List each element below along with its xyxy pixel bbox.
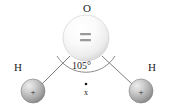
oxygen-atom-sphere: [63, 15, 109, 61]
oxygen-lone-pair-mark-upper: [80, 33, 91, 35]
bond-line-right: [102, 56, 132, 84]
water-molecule-figure: + + O H H 105° x: [0, 0, 171, 109]
hydrogen-left-atom-label: H: [14, 62, 22, 73]
dipole-marker-dot: [85, 83, 88, 86]
hydrogen-right-charge-label: +: [138, 87, 143, 97]
oxygen-lone-pair-mark-lower: [80, 39, 91, 41]
dipole-marker-label: x: [84, 89, 88, 97]
oxygen-atom-label: O: [83, 3, 91, 14]
bond-angle-label: 105°: [72, 61, 91, 71]
bond-line-left: [42, 56, 70, 84]
hydrogen-left-charge-label: +: [30, 87, 35, 97]
hydrogen-right-atom-label: H: [148, 62, 156, 73]
